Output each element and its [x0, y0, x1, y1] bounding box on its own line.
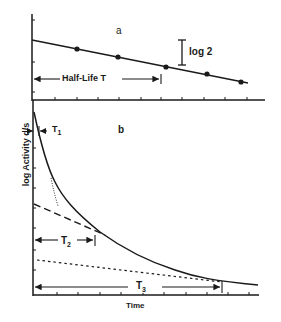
panel-a-axes	[32, 14, 265, 101]
t3-arrow	[35, 281, 222, 293]
panel-a-label: a	[116, 26, 122, 36]
y-axis-label: log Activity d/s	[22, 120, 31, 190]
t3-label: T3	[134, 281, 148, 293]
log2-bracket	[178, 40, 186, 65]
log2-label: log 2	[189, 47, 212, 57]
t1-subscript: 1	[58, 129, 62, 136]
component-2-dashed	[34, 204, 105, 235]
total-activity-curve	[34, 112, 258, 285]
t3-subscript: 3	[142, 286, 146, 293]
t2-label: T2	[60, 236, 72, 248]
t2-subscript: 2	[67, 241, 71, 248]
decay-diagram	[0, 0, 281, 322]
component-3-short-dashed	[37, 260, 222, 282]
t1-label: T1	[52, 125, 61, 136]
panel-b-axes	[33, 100, 259, 296]
panel-b-label: b	[118, 125, 124, 135]
x-axis-label: Time	[126, 302, 145, 310]
half-life-label: Half-Life T	[60, 74, 108, 83]
